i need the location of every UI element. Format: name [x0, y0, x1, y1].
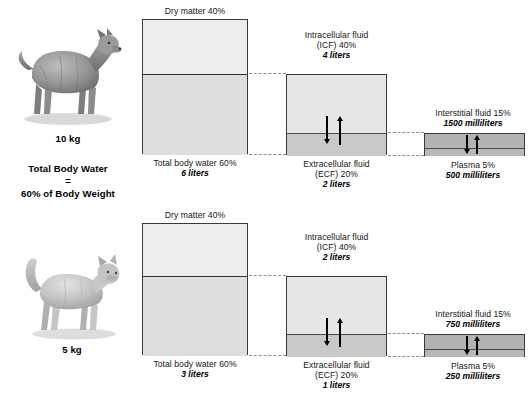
up-arrow-shaft [476, 340, 478, 355]
dog-total-body-water-segment [143, 74, 247, 155]
dog-icf-label-line2: (ICF) 40% [286, 40, 387, 50]
cat-leader-bottom [249, 355, 286, 356]
tbw-line-1: Total Body Water [4, 163, 132, 175]
cat-leader-top [249, 275, 286, 276]
down-arrow-shaft [326, 116, 328, 140]
up-arrow-shaft [339, 323, 341, 347]
cat-icf-ecf-exchange-arrows [322, 318, 348, 347]
cat-interstitial-value: 750 milliliters [418, 319, 528, 329]
dog-ecf-leader-bottom [388, 155, 424, 156]
down-arrow-icon [324, 139, 330, 144]
up-arrow-shaft [476, 139, 478, 154]
dog-ecf-leader-top [388, 132, 424, 133]
dog-ecf-label-line2: (ECF) 20% [286, 169, 387, 179]
cat-tbw-label: Total body water 60% [136, 359, 254, 369]
up-arrow-icon [337, 116, 343, 121]
dog-dry-matter-label: Dry matter 40% [142, 6, 248, 16]
down-arrow-shaft [466, 135, 468, 150]
dog-dry-matter-segment [143, 20, 247, 74]
up-arrow-icon [474, 336, 480, 341]
cat-ecf-label-line2: (ECF) 20% [286, 370, 387, 380]
cat-icf-value: 2 liters [286, 252, 387, 262]
cat-ecf-label-line1: Extracellular fluid [286, 360, 387, 370]
down-arrow-icon [464, 149, 470, 154]
dog-icf-ecf-exchange-arrows [322, 116, 348, 145]
up-arrow-shaft [339, 121, 341, 145]
up-arrow-icon [474, 135, 480, 140]
dog-tbw-value: 6 liters [136, 168, 254, 178]
cat-whole-body-box [142, 223, 248, 355]
dog-ecf-value: 2 liters [286, 179, 387, 189]
tbw-line-2: = [4, 175, 132, 187]
cat-tbw-value: 3 liters [136, 369, 254, 379]
dog-isf-plasma-exchange-arrows [462, 135, 486, 154]
dog-tbw-label: Total body water 60% [136, 158, 254, 168]
dog-leader-top [249, 73, 286, 74]
dog-ecf-label: Extracellular fluid (ECF) 20% [286, 159, 387, 179]
cat-plasma-label: Plasma 5% [418, 361, 528, 371]
down-arrow-shaft [326, 318, 328, 342]
cat-ecf-value: 1 liters [286, 380, 387, 390]
cat-icf-label-line1: Intracellular fluid [286, 232, 387, 242]
dog-interstitial-value: 1500 milliliters [418, 118, 528, 128]
dog-icf-value: 4 liters [286, 50, 387, 60]
down-arrow-icon [464, 350, 470, 355]
dog-plasma-label: Plasma 5% [418, 160, 528, 170]
tbw-line-3: 60% of Body Weight [4, 188, 132, 200]
cat-weight-label: 5 kg [20, 344, 124, 355]
dog-whole-body-box [142, 19, 248, 154]
up-arrow-icon [337, 318, 343, 323]
cat-total-body-water-segment [143, 276, 247, 356]
dog-interstitial-label: Interstitial fluid 15% [418, 108, 528, 118]
dog-icf-label-line1: Intracellular fluid [286, 30, 387, 40]
cat-ecf-label: Extracellular fluid (ECF) 20% [286, 360, 387, 380]
dog-icf-label: Intracellular fluid (ICF) 40% [286, 30, 387, 50]
cat-icf-label-line2: (ICF) 40% [286, 242, 387, 252]
total-body-water-caption: Total Body Water = 60% of Body Weight [4, 163, 132, 200]
cat-interstitial-label: Interstitial fluid 15% [418, 309, 528, 319]
cat-icf-label: Intracellular fluid (ICF) 40% [286, 232, 387, 252]
down-arrow-icon [324, 341, 330, 346]
dog-silhouette [14, 26, 122, 126]
cat-ecf-leader-top [388, 333, 424, 334]
cat-dry-matter-label: Dry matter 40% [142, 210, 248, 220]
dog-weight-label: 10 kg [14, 133, 122, 144]
dog-ecf-label-line1: Extracellular fluid [286, 159, 387, 169]
dog-plasma-value: 500 milliliters [418, 170, 528, 180]
cat-dry-matter-segment [143, 224, 247, 276]
cat-ecf-leader-bottom [388, 356, 424, 357]
cat-plasma-value: 250 milliliters [418, 371, 528, 381]
cat-isf-plasma-exchange-arrows [462, 336, 486, 355]
cat-silhouette [20, 248, 124, 340]
down-arrow-shaft [466, 336, 468, 351]
dog-leader-bottom [249, 154, 286, 155]
